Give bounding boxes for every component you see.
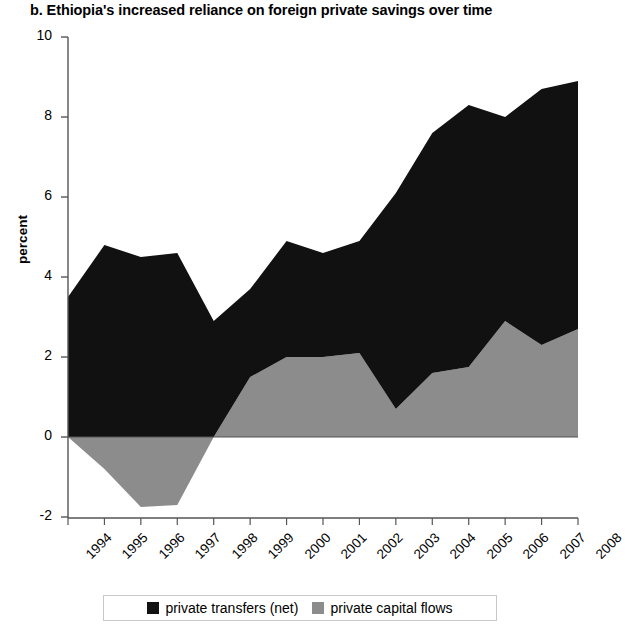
legend-label-private-transfers: private transfers (net) bbox=[165, 600, 298, 616]
y-tick-label: 4 bbox=[18, 267, 52, 283]
legend-item-private-transfers: private transfers (net) bbox=[147, 600, 298, 616]
x-axis-tick-marks bbox=[68, 518, 578, 525]
y-tick-label: -2 bbox=[18, 507, 52, 523]
square-swatch-gray-icon bbox=[312, 602, 324, 614]
legend-label-private-capital-flows: private capital flows bbox=[330, 600, 452, 616]
square-swatch-black-icon bbox=[147, 602, 159, 614]
y-axis-tick-marks bbox=[61, 37, 68, 517]
y-tick-label: 10 bbox=[18, 27, 52, 43]
y-tick-label: 6 bbox=[18, 187, 52, 203]
y-tick-label: 2 bbox=[18, 347, 52, 363]
y-tick-label: 8 bbox=[18, 107, 52, 123]
legend-item-private-capital-flows: private capital flows bbox=[312, 600, 452, 616]
y-tick-label: 0 bbox=[18, 427, 52, 443]
chart-legend: private transfers (net) private capital … bbox=[103, 595, 497, 621]
